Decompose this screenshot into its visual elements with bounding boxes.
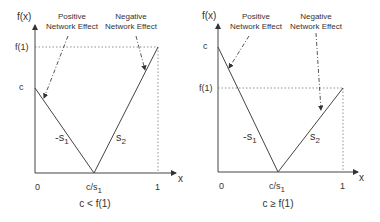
left-slope-label: -s1 xyxy=(243,130,257,145)
x-axis-label: x xyxy=(178,173,183,184)
positive-effect-label-line2: Network Effect xyxy=(230,22,283,31)
y-axis-label: f(x) xyxy=(202,10,216,21)
y-axis-label: f(x) xyxy=(17,11,31,22)
y-tick-upper: f(1) xyxy=(15,42,29,52)
right-slope-label: s2 xyxy=(310,130,321,145)
network-effect-diagram: f(x) x f(1) c 0 c/s1 1 -s1 s2 Positive N… xyxy=(0,0,380,222)
y-tick-lower: c xyxy=(19,82,24,92)
y-tick-upper: c xyxy=(203,41,208,51)
positive-effect-pointer xyxy=(229,36,249,68)
positive-effect-label-line1: Positive xyxy=(58,12,87,21)
left-caption: c < f(1) xyxy=(79,198,110,209)
x-tick-min: c/s1 xyxy=(269,181,286,194)
positive-effect-pointer xyxy=(44,36,68,98)
negative-effect-label-line2: Network Effect xyxy=(290,22,343,31)
positive-effect-label-line1: Positive xyxy=(242,12,271,21)
right-caption: c ≥ f(1) xyxy=(262,198,293,209)
positive-effect-label-line2: Network Effect xyxy=(46,22,99,31)
negative-effect-pointer xyxy=(316,33,321,110)
left-panel: f(x) x f(1) c 0 c/s1 1 -s1 s2 Positive N… xyxy=(15,11,183,209)
x-axis-label: x xyxy=(359,172,364,183)
x-tick-origin: 0 xyxy=(35,182,40,192)
x-tick-end: 1 xyxy=(155,182,160,192)
negative-effect-label-line2: Network Effect xyxy=(105,22,158,31)
x-tick-min: c/s1 xyxy=(86,182,103,195)
v-curve xyxy=(218,47,343,172)
right-slope-label: s2 xyxy=(116,131,127,146)
x-tick-end: 1 xyxy=(340,181,345,191)
v-curve xyxy=(35,47,158,173)
left-slope-label: -s1 xyxy=(55,131,69,146)
negative-effect-label-line1: Negative xyxy=(115,12,147,21)
negative-effect-label-line1: Negative xyxy=(300,12,332,21)
x-tick-origin: 0 xyxy=(219,181,224,191)
right-panel: f(x) x c f(1) 0 c/s1 1 -s1 s2 Positive N… xyxy=(199,10,364,209)
negative-effect-pointer xyxy=(136,36,145,70)
y-tick-lower: f(1) xyxy=(199,83,213,93)
